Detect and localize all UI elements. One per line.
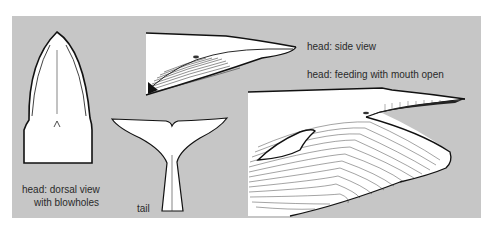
dorsal-head-drawing — [24, 32, 92, 163]
feeding-head-drawing — [248, 88, 465, 216]
label-dorsal-line1: head: dorsal view — [22, 184, 100, 196]
label-side-view: head: side view — [307, 41, 376, 53]
label-dorsal-line2: with blowholes — [34, 197, 99, 209]
side-head-drawing — [146, 33, 296, 95]
label-tail: tail — [137, 203, 150, 215]
label-feeding: head: feeding with mouth open — [307, 69, 444, 81]
tail-drawing — [112, 118, 227, 211]
